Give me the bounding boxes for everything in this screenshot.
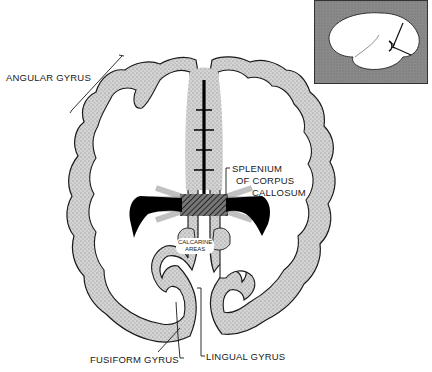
diagram-stage: ANGULAR GYRUS SPLENIUM OF CORPUS CALLOSU… bbox=[0, 0, 432, 372]
lingual-gyrus-leader bbox=[197, 288, 205, 356]
label-calcarine-line1: CALCARINE bbox=[178, 239, 212, 246]
label-fusiform-gyrus: FUSIFORM GYRUS bbox=[90, 354, 179, 365]
label-calcarine-line2: AREAS bbox=[178, 246, 212, 253]
label-lingual-gyrus: LINGUAL GYRUS bbox=[206, 351, 285, 362]
inset-brain-icon bbox=[315, 1, 428, 84]
label-calcarine-areas: CALCARINE AREAS bbox=[176, 238, 214, 254]
label-angular-gyrus: ANGULAR GYRUS bbox=[6, 72, 91, 83]
label-splenium-line2: OF CORPUS bbox=[236, 175, 294, 186]
midline-fissure bbox=[185, 68, 223, 201]
label-splenium-line3: CALLOSUM bbox=[252, 187, 306, 198]
label-splenium-line1: SPLENIUM bbox=[232, 163, 282, 174]
inset-lateral-view bbox=[314, 0, 428, 84]
